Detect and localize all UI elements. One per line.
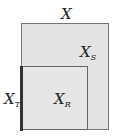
- label-xr: XR: [54, 92, 71, 109]
- label-xs: XS: [80, 45, 96, 62]
- set-xt-edge: [20, 66, 23, 131]
- label-x: X: [61, 7, 72, 22]
- label-xt: XT: [4, 92, 20, 109]
